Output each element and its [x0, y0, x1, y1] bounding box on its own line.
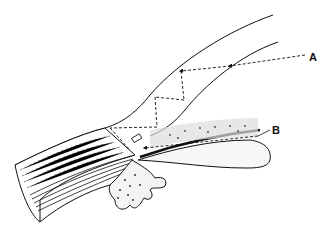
label-b: B	[272, 124, 280, 136]
iris	[138, 118, 270, 168]
anatomy-illustration	[0, 0, 329, 230]
trabecular-meshwork	[132, 134, 142, 143]
label-a: A	[309, 51, 317, 63]
